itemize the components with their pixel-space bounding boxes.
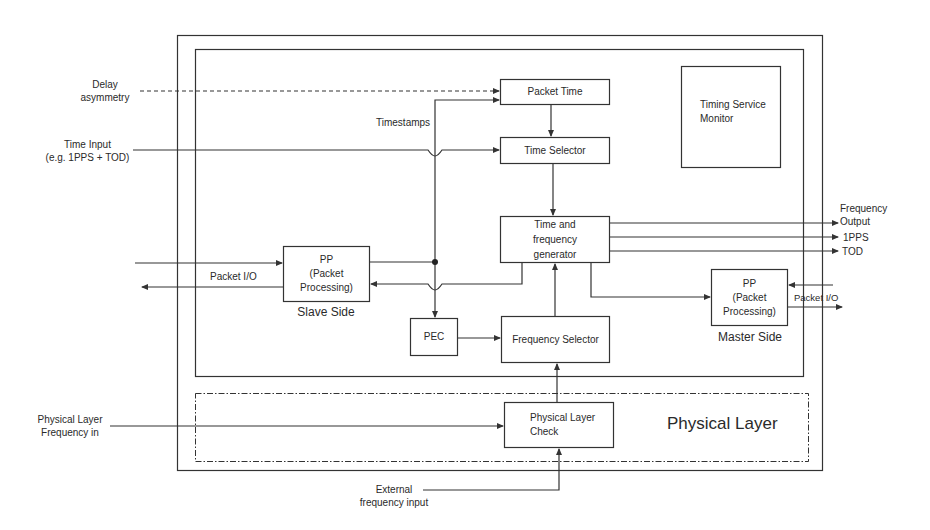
time-selector-label: Time Selector (501, 138, 609, 163)
pp-master-line1: PP (743, 277, 756, 291)
delay-asymmetry-line1: Delay (70, 78, 140, 91)
frequency-selector-label: Frequency Selector (502, 317, 609, 362)
packet-io-slave-label: Packet I/O (210, 270, 257, 283)
pp-master-line3: Processing) (723, 305, 776, 319)
external-freq-line2: frequency input (352, 496, 436, 509)
packet-time-label: Packet Time (501, 80, 609, 104)
slave-side-caption: Slave Side (283, 306, 369, 319)
time-input-line2: (e.g. 1PPS + TOD) (40, 151, 135, 164)
frequency-output-line1: Frequency (840, 202, 887, 215)
plc-line1: Physical Layer (530, 411, 595, 425)
physical-layer-freq-label: Physical Layer Frequency in (30, 413, 110, 439)
time-input-label: Time Input (e.g. 1PPS + TOD) (40, 138, 135, 164)
pp-master-line2: (Packet (733, 291, 767, 305)
timestamps-junction (432, 259, 438, 265)
pps-output-label: 1PPS (843, 231, 869, 244)
delay-asymmetry-label: Delay asymmetry (70, 78, 140, 104)
pp-slave-line2: (Packet (310, 267, 344, 281)
physical-layer-region-label: Physical Layer (667, 417, 778, 430)
external-freq-line (423, 449, 559, 490)
pp-slave-label: PP (Packet Processing) (284, 247, 369, 301)
plc-line2: Check (530, 425, 558, 439)
pp-slave-line3: Processing) (300, 281, 353, 295)
timing-service-monitor-label: Timing Service Monitor (700, 98, 772, 128)
time-input-line1: Time Input (40, 138, 135, 151)
pp-slave-line1: PP (320, 253, 333, 267)
tfg-to-pp-master (591, 263, 710, 297)
external-freq-label: External frequency input (352, 483, 436, 509)
frequency-output-line2: Output (840, 215, 887, 228)
time-freq-generator-label: Time and frequency generator (520, 216, 590, 262)
frequency-output-label: Frequency Output (840, 202, 887, 228)
physical-layer-freq-line1: Physical Layer (30, 413, 110, 426)
pec-label: PEC (411, 319, 457, 355)
master-side-caption: Master Side (710, 331, 790, 344)
timestamps-line (435, 100, 499, 262)
pp-master-label: PP (Packet Processing) (712, 270, 787, 325)
physical-layer-check-label: Physical Layer Check (530, 403, 610, 447)
physical-layer-freq-line2: Frequency in (30, 426, 110, 439)
external-freq-line1: External (352, 483, 436, 496)
tfg-to-pp-slave (371, 263, 522, 290)
timestamps-label: Timestamps (376, 116, 430, 129)
packet-io-master-label: Packet I/O (794, 291, 838, 304)
delay-asymmetry-line2: asymmetry (70, 91, 140, 104)
tod-output-label: TOD (842, 245, 863, 258)
time-input-line (133, 150, 499, 156)
